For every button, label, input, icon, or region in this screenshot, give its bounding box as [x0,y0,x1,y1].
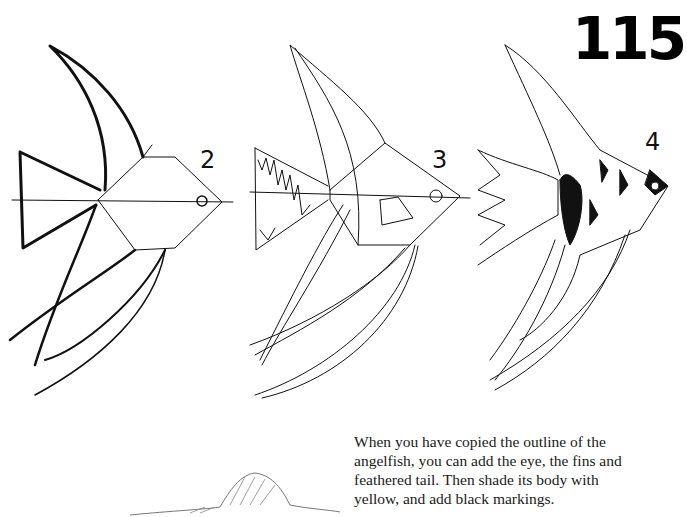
angelfish-step-2-drawing [10,46,233,395]
instruction-caption: When you have copied the outline of the … [354,432,684,508]
step-label-4: 4 [645,130,660,154]
angelfish-step-4-drawing [478,45,668,390]
rock-sketch-illustration [130,465,340,517]
step-label-2: 2 [200,148,215,172]
caption-line: angelfish, you can add the eye, the fins… [354,451,684,470]
angelfish-step-3-drawing [250,45,470,398]
caption-line: feathered tail. Then shade its body with [354,470,684,489]
step-label-3: 3 [432,148,447,172]
caption-line: When you have copied the outline of the [354,432,684,451]
caption-line: yellow, and add black markings. [354,489,684,508]
